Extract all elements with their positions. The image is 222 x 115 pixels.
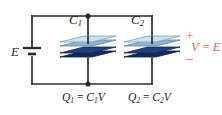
voltage-emf-symbol: E	[213, 39, 221, 54]
bottom-junction-dot	[85, 81, 90, 86]
charge-1-voltage-symbol: V	[98, 91, 105, 103]
charge-1-rhs-symbol: C	[86, 91, 94, 103]
charge-2-rhs-symbol: C	[152, 91, 160, 103]
charge-2-equals: =	[140, 91, 152, 103]
voltage-equation-label: V = E	[191, 40, 221, 53]
capacitor-1-label: C1	[69, 13, 82, 27]
voltage-equals: =	[199, 39, 213, 54]
charge-1-equation: Q1 = C1V	[62, 92, 105, 104]
capacitor-1-subscript: 1	[78, 18, 82, 28]
capacitor-2-label: C2	[131, 13, 144, 27]
polarity-minus-label: –	[186, 52, 193, 66]
charge-2-equation: Q2 = C2V	[128, 92, 171, 104]
top-junction-dot	[85, 13, 90, 18]
capacitor-2-subscript: 2	[140, 18, 144, 28]
charge-2-voltage-symbol: V	[164, 91, 171, 103]
circuit-diagram-figure: E C1 C2 Q1 = C1V Q2 = C2V + V = E –	[0, 0, 222, 115]
capacitor-1-plates	[60, 36, 116, 57]
battery-symbol	[23, 48, 41, 54]
capacitor-1-symbol: C	[69, 12, 78, 27]
capacitor-2-symbol: C	[131, 12, 140, 27]
charge-1-equals: =	[74, 91, 86, 103]
capacitor-2-plates	[124, 36, 180, 57]
battery-label: E	[11, 45, 19, 58]
